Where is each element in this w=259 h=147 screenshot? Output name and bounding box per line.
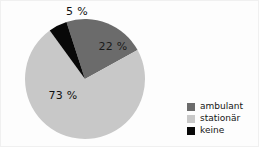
legend-label-stationaer: stationär [200,113,240,124]
legend-label-ambulant: ambulant [200,101,243,112]
pie-label-stationaer: 73 % [48,89,77,102]
pie-label-ambulant: 22 % [98,40,127,53]
legend-item-ambulant[interactable]: ambulant [187,101,257,112]
legend-label-keine: keine [200,125,224,136]
pie-slices [25,19,145,139]
chart-legend: ambulant stationär keine [187,101,257,137]
legend-swatch-ambulant [187,103,195,111]
legend-swatch-keine [187,127,195,135]
legend-item-keine[interactable]: keine [187,125,257,136]
pie-label-keine: 5 % [66,5,88,18]
legend-swatch-stationaer [187,115,195,123]
pie-chart-figure: 22 % 73 % 5 % ambulant stationär keine [0,0,259,147]
legend-item-stationaer[interactable]: stationär [187,113,257,124]
